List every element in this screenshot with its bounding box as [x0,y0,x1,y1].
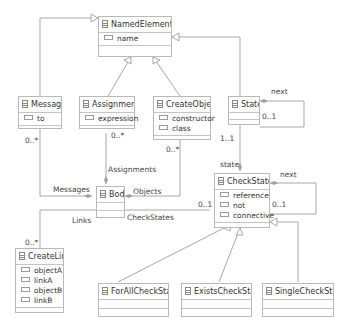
label-message-mult: 0..* [25,136,38,145]
label-check-states-mult: 0..1 [198,200,212,209]
attribute-icon [85,115,94,120]
class-icon [266,287,272,295]
label-check-state-next: next [280,170,297,179]
label-links: Links [72,216,91,225]
attribute-name: reference [233,191,269,200]
label-state-role: state [220,160,239,169]
attribute-name: linkA [34,276,52,285]
label-create-object-mult: 0..* [166,145,179,154]
class-create-link[interactable]: CreateLink objectA linkA objectB linkB [15,248,64,313]
class-single-check-state[interactable]: SingleCheckState [262,283,334,317]
label-messages: Messages [53,185,90,194]
class-icon [157,100,163,108]
attribute-icon [21,287,30,292]
attribute-icon [104,35,113,40]
class-body[interactable]: Body [96,186,125,218]
attribute-icon [21,267,30,272]
class-title: CheckState [227,177,269,186]
class-check-state[interactable]: CheckState reference not connective [214,173,270,228]
attribute-icon [220,202,229,207]
label-assignments: Assignments [108,165,156,174]
attribute-name: linkB [34,296,52,305]
class-title: Body [109,190,124,199]
class-title: State [241,100,259,109]
class-assignment[interactable]: Assignment expression [79,96,135,129]
class-icon [232,100,238,108]
label-state-next: next [271,87,288,96]
class-title: CreateLink [28,252,63,261]
label-create-link-mult: 0..* [25,238,38,247]
attribute-name: objectB [34,286,62,295]
class-title: Message [31,100,61,109]
class-named-element[interactable]: NamedElement name [98,16,172,57]
attribute-icon [220,212,229,217]
class-for-all-check-state[interactable]: ForAllCheckState [98,283,169,317]
class-create-object[interactable]: CreateObject constructor class [153,96,211,140]
attribute-icon [159,125,168,130]
class-icon [19,252,25,260]
label-objects: Objects [133,187,161,196]
attribute-name: constructor [172,114,215,123]
label-assignment-mult: 0..* [111,131,124,140]
class-title: ForAllCheckState [111,287,168,296]
attribute-name: not [233,201,245,210]
class-title: SingleCheckState [275,287,333,296]
attribute-icon [220,192,229,197]
label-check-states: CheckStates [127,213,174,222]
class-icon [22,100,28,108]
attribute-icon [21,277,30,282]
label-state-next-mult: 0..1 [262,112,276,121]
attribute-icon [159,115,168,120]
class-icon [83,100,89,108]
class-title: NamedElement [111,20,171,29]
attribute-name: expression [98,114,138,123]
class-exists-check-state[interactable]: ExistsCheckState [181,283,252,317]
class-icon [218,177,224,185]
class-message[interactable]: Message to [18,96,62,129]
class-title: ExistsCheckState [194,287,251,296]
label-check-state-next-mult: 0..1 [272,200,286,209]
class-icon [102,20,108,28]
class-title: CreateObject [166,100,210,109]
attribute-name: to [37,114,45,123]
attribute-icon [24,115,33,120]
class-title: Assignment [92,100,134,109]
attribute-icon [21,297,30,302]
label-state-mult: 1..1 [220,134,234,143]
attribute-name: name [117,34,138,43]
class-icon [100,190,106,198]
attribute-name: connective [233,211,274,220]
attribute-name: class [172,124,191,133]
attribute-name: objectA [34,266,62,275]
class-icon [185,287,191,295]
class-icon [102,287,108,295]
class-state[interactable]: State [228,96,260,125]
